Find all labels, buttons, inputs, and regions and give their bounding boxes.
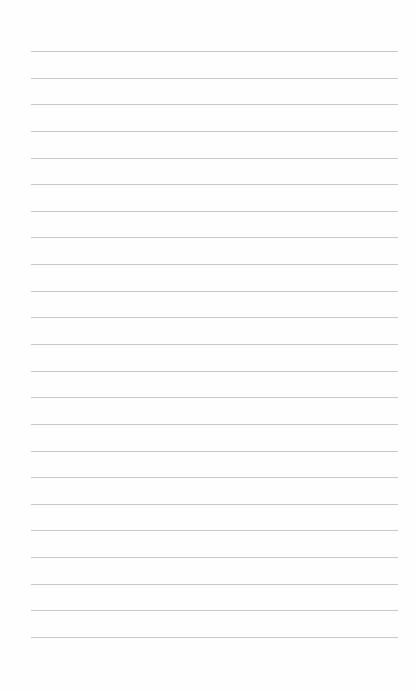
ruled-line bbox=[31, 557, 398, 558]
ruled-line bbox=[31, 397, 398, 398]
ruled-line bbox=[31, 51, 398, 52]
ruled-line bbox=[31, 530, 398, 531]
ruled-line bbox=[31, 184, 398, 185]
ruled-line bbox=[31, 317, 398, 318]
ruled-line bbox=[31, 504, 398, 505]
ruled-line bbox=[31, 78, 398, 79]
ruled-line bbox=[31, 424, 398, 425]
ruled-line bbox=[31, 584, 398, 585]
ruled-line bbox=[31, 211, 398, 212]
ruled-line bbox=[31, 371, 398, 372]
ruled-line bbox=[31, 291, 398, 292]
ruled-line bbox=[31, 131, 398, 132]
ruled-line bbox=[31, 451, 398, 452]
ruled-line bbox=[31, 344, 398, 345]
ruled-line bbox=[31, 158, 398, 159]
ruled-line bbox=[31, 637, 398, 638]
ruled-line bbox=[31, 264, 398, 265]
ruled-line bbox=[31, 610, 398, 611]
ruled-line bbox=[31, 237, 398, 238]
ruled-line bbox=[31, 104, 398, 105]
lined-paper-sheet bbox=[0, 0, 415, 690]
ruled-line bbox=[31, 477, 398, 478]
